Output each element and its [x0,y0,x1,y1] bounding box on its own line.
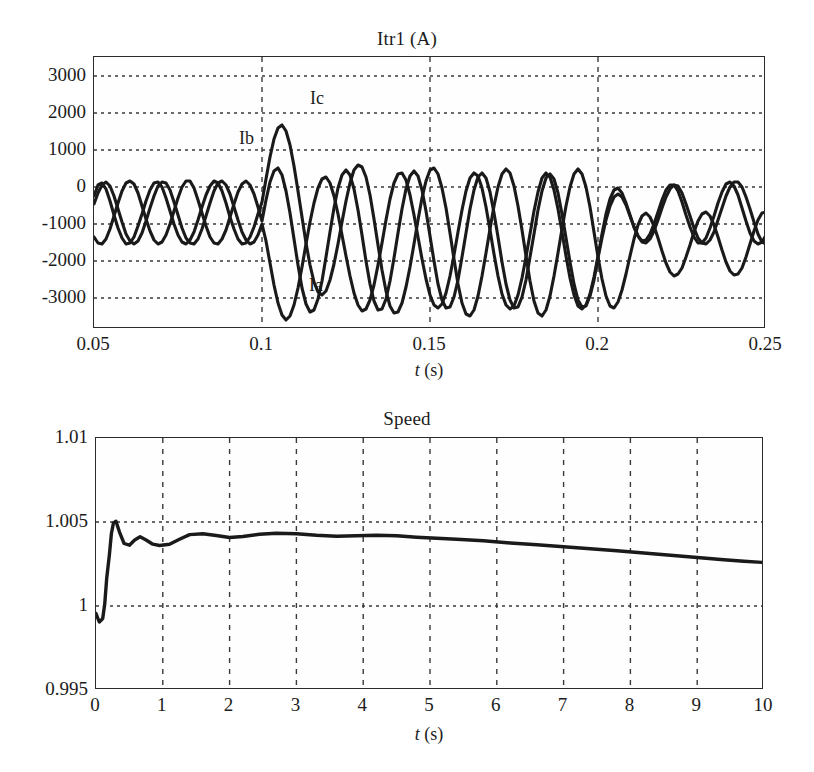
speed-chart-xaxis-label: t (s) [95,724,763,745]
speed-xtick-6: 6 [491,694,501,716]
current-chart-plot-area [93,56,765,328]
current-xtick-4: 0.25 [748,333,781,355]
current-xaxis-symbol: t (s) [415,360,444,380]
speed-xtick-5: 5 [424,694,434,716]
current-ytick-2000: 2000 [0,101,86,123]
series-label-ia: Ia [309,275,323,296]
current-xtick-2: 0.15 [412,333,445,355]
series-label-ib: Ib [239,128,254,149]
speed-chart-plot-area [95,437,763,689]
current-ytick-3000: 3000 [0,64,86,86]
speed-xtick-10: 10 [754,694,773,716]
current-xtick-0: 0.05 [76,333,109,355]
speed-ytick-1p005: 1.005 [0,510,88,532]
speed-chart-panel: Speed 1.01 1.005 1 0.995 [0,406,814,772]
speed-xtick-2: 2 [224,694,234,716]
speed-xtick-8: 8 [625,694,635,716]
speed-ytick-0p995: 0.995 [0,678,88,700]
current-ytick-neg3000: -3000 [0,286,86,308]
speed-chart-svg [96,438,763,689]
current-xtick-3: 0.2 [585,333,609,355]
current-ytick-neg1000: -1000 [0,212,86,234]
current-chart-svg [94,57,765,328]
current-chart-title: Itr1 (A) [0,28,814,50]
speed-ytick-1: 1 [0,594,88,616]
current-chart-panel: Itr1 (A) 3000 2000 1000 0 -1000 -2000 -3… [0,26,814,381]
current-ytick-0: 0 [0,175,86,197]
speed-xtick-7: 7 [558,694,568,716]
figure-canvas: Itr1 (A) 3000 2000 1000 0 -1000 -2000 -3… [0,0,814,772]
current-ytick-neg2000: -2000 [0,249,86,271]
current-ytick-1000: 1000 [0,138,86,160]
speed-xtick-3: 3 [291,694,301,716]
current-chart-series-group [94,125,765,320]
current-xtick-1: 0.1 [249,333,273,355]
current-chart-xaxis-label: t (s) [93,360,765,381]
speed-xtick-9: 9 [691,694,701,716]
speed-chart-title: Speed [0,408,814,430]
speed-xtick-0: 0 [90,694,100,716]
speed-chart-gridlines [96,438,763,689]
speed-xaxis-symbol: t (s) [415,724,444,744]
speed-ytick-1p01: 1.01 [0,426,88,448]
speed-xtick-1: 1 [157,694,167,716]
speed-xtick-4: 4 [357,694,367,716]
series-label-ic: Ic [310,88,324,109]
